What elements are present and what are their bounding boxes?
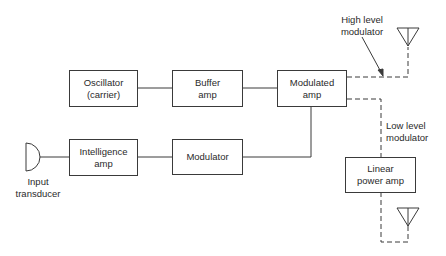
high-level-path (347, 47, 408, 77)
high-level-label: High level modulator (332, 14, 392, 38)
oscillator-label: Oscillator (84, 77, 124, 89)
low-level-line2: modulator (386, 132, 446, 144)
intelligence-label: Intelligence (79, 146, 127, 158)
power-amp-output-path (381, 192, 408, 242)
low-level-path (347, 99, 381, 157)
buffer-amp-block: Buffer amp (172, 70, 243, 107)
buffer-label: Buffer (195, 77, 220, 89)
oscillator-block: Oscillator (carrier) (69, 70, 138, 107)
modulator-block: Modulator (172, 139, 243, 175)
buffer-sublabel: amp (198, 89, 216, 101)
linear-label: Linear (367, 163, 393, 175)
intelligence-amp-block: Intelligence amp (69, 139, 138, 176)
modulated-amp-label: Modulated (290, 77, 334, 89)
modulated-amp-sublabel: amp (303, 89, 321, 101)
high-level-line1: High level (332, 14, 392, 26)
connection-wires (0, 0, 446, 256)
oscillator-sublabel: (carrier) (87, 89, 120, 101)
modulator-label: Modulator (186, 151, 228, 163)
antenna-icon-low (397, 208, 419, 226)
low-level-line1: Low level (386, 120, 446, 132)
linear-power-amp-block: Linear power amp (345, 157, 416, 193)
low-level-label: Low level modulator (386, 120, 446, 144)
intelligence-sublabel: amp (94, 158, 112, 170)
arrow-high-level (362, 37, 381, 72)
input-label-line1: Input (10, 176, 66, 188)
input-transducer-icon (26, 143, 40, 171)
linear-sublabel: power amp (357, 175, 404, 187)
high-level-line2: modulator (332, 26, 392, 38)
input-label-line2: transducer (10, 188, 66, 200)
wire-modulator-modulated-amp (242, 106, 311, 157)
antenna-icon-high (397, 28, 419, 46)
input-transducer-label: Input transducer (10, 176, 66, 200)
arrow-head-icon (378, 69, 383, 76)
modulated-amp-block: Modulated amp (277, 70, 347, 107)
